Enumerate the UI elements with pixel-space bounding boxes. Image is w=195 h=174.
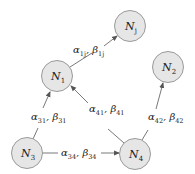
node-nj: Nj [115,11,146,42]
node-n2: N2 [153,52,184,83]
edge-label-34: α34, β34 [61,147,96,161]
node-n3: N3 [12,138,43,169]
graph-canvas: Nj N1 N2 N3 N4 α1j, β1j α31, β31 α41, β4… [0,0,195,174]
edge-label-1j: α1j, β1j [73,44,104,58]
edge-label-41: α41, β41 [89,103,124,117]
edge-label-42: α42, β42 [148,111,183,125]
node-n1: N1 [42,61,73,92]
edge-label-31: α31, β31 [31,111,66,125]
node-n4: N4 [120,139,151,170]
